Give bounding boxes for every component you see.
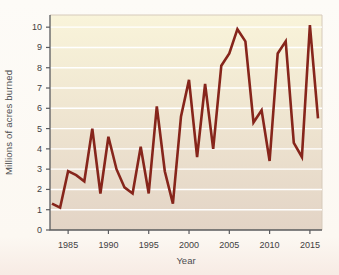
y-tick-label: 9 bbox=[24, 42, 42, 52]
y-tick-label: 0 bbox=[24, 225, 42, 235]
y-tick-label: 3 bbox=[24, 164, 42, 174]
y-tick-label: 7 bbox=[24, 83, 42, 93]
x-tick-label: 2015 bbox=[293, 240, 327, 250]
y-tick-label: 6 bbox=[24, 103, 42, 113]
y-tick-label: 2 bbox=[24, 184, 42, 194]
y-tick-label: 1 bbox=[24, 205, 42, 215]
y-tick-label: 10 bbox=[24, 22, 42, 32]
x-tick-label: 1990 bbox=[91, 240, 125, 250]
wildfire-line-chart: Millions of acres burned Year 0123456789… bbox=[0, 0, 339, 275]
y-tick-label: 8 bbox=[24, 63, 42, 73]
y-tick-label: 4 bbox=[24, 144, 42, 154]
x-tick-label: 2005 bbox=[212, 240, 246, 250]
x-tick-label: 1995 bbox=[132, 240, 166, 250]
y-axis-label: Millions of acres burned bbox=[3, 15, 14, 230]
x-axis-label: Year bbox=[50, 255, 322, 266]
x-tick-label: 2000 bbox=[172, 240, 206, 250]
x-tick-label: 2010 bbox=[253, 240, 287, 250]
y-tick-label: 5 bbox=[24, 124, 42, 134]
chart-plot-area bbox=[0, 0, 339, 275]
x-tick-label: 1985 bbox=[51, 240, 85, 250]
